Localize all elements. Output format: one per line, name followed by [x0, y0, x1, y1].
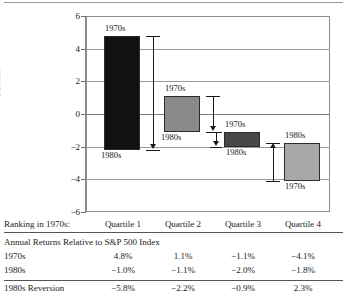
- arrowhead-q2: [210, 126, 216, 131]
- bar-label-q2-bottom: 1980s: [161, 133, 181, 142]
- table-section-title-row: Annual Returns Relative to S&P 500 Index: [4, 235, 343, 249]
- table-row-label-reversion: 1980s Reversion: [4, 281, 64, 295]
- table-header-label: Ranking in 1970s:: [4, 216, 70, 232]
- y-tick-label-4: 4: [58, 45, 80, 54]
- y-tick-label-2: 2: [58, 77, 80, 86]
- bar-label-q1-top: 1970s: [105, 24, 125, 33]
- table-header-quartile-2: Quartile 2: [153, 216, 213, 232]
- table-cell-reversion-q4: 2.3%: [273, 281, 333, 295]
- table-row-reversion: 1980s Reversion −5.8% −2.2% −0.9% 2.3%: [4, 281, 343, 295]
- table-header-quartile-4: Quartile 4: [273, 216, 333, 232]
- arrow-line-q1: [153, 36, 154, 145]
- y-tick-label-6: 6: [58, 12, 80, 21]
- arrowhead-q4: [270, 143, 276, 148]
- table-cell-1970s-q1: 4.8%: [93, 249, 153, 263]
- data-table: Ranking in 1970s: Quartile 1 Quartile 2 …: [4, 216, 343, 295]
- y-tick-m6: [81, 212, 86, 213]
- table-rule-top: [4, 232, 343, 233]
- top-divider: [4, 2, 343, 3]
- bar-label-q3-top: 1970s: [225, 120, 245, 129]
- table-cell-1970s-q3: −1.1%: [213, 249, 273, 263]
- bar-quartile-2[interactable]: [164, 96, 200, 132]
- table-row-label-1970s: 1970s: [4, 249, 26, 263]
- table-cell-1970s-q2: 1.1%: [153, 249, 213, 263]
- plot-area: 1970s 1980s 1970s 1980s 1970s 1980s 1980…: [86, 16, 330, 212]
- table-section-title: Annual Returns Relative to S&P 500 Index: [4, 235, 160, 249]
- table-row-1980s: 1980s −1.0% −1.1% −2.0% −1.8%: [4, 263, 343, 277]
- table-row-1970s: 1970s 4.8% 1.1% −1.1% −4.1%: [4, 249, 343, 263]
- figure-container: Percent 6 4 2 0 −2 −4 −6 1970s 1980s 197…: [0, 0, 347, 307]
- bar-label-q2-top: 1970s: [165, 84, 185, 93]
- bar-quartile-4[interactable]: [284, 143, 320, 181]
- table-cell-reversion-q1: −5.8%: [93, 281, 153, 295]
- arrow-cap-q1-bottom: [146, 150, 160, 151]
- table-header-quartile-3: Quartile 3: [213, 216, 273, 232]
- y-axis-title: Percent: [0, 68, 2, 96]
- y-tick-label-m4: −4: [58, 175, 80, 184]
- arrow-cap-q4-bottom: [266, 181, 280, 182]
- table-cell-reversion-q3: −0.9%: [213, 281, 273, 295]
- table-row-label-1980s: 1980s: [4, 263, 26, 277]
- table-cell-1980s-q2: −1.1%: [153, 263, 213, 277]
- bar-label-q1-bottom: 1980s: [101, 151, 121, 160]
- y-tick-label-m2: −2: [58, 143, 80, 152]
- bar-label-q4-bottom: 1970s: [285, 182, 305, 191]
- bar-label-q4-top: 1980s: [285, 131, 305, 140]
- table-cell-1970s-q4: −4.1%: [273, 249, 333, 263]
- arrowhead-q3: [213, 141, 219, 146]
- bar-quartile-3[interactable]: [224, 132, 260, 147]
- table-cell-reversion-q2: −2.2%: [153, 281, 213, 295]
- bar-quartile-1[interactable]: [104, 36, 140, 150]
- table-header-quartile-1: Quartile 1: [93, 216, 153, 232]
- bar-label-q3-bottom: 1980s: [226, 148, 246, 157]
- y-tick-label-0: 0: [58, 110, 80, 119]
- table-cell-1980s-q4: −1.8%: [273, 263, 333, 277]
- table-header-row: Ranking in 1970s: Quartile 1 Quartile 2 …: [4, 216, 343, 232]
- arrowhead-q1: [150, 144, 156, 149]
- arrow-line-q2: [213, 96, 214, 127]
- arrow-line-q4: [273, 147, 274, 181]
- table-cell-1980s-q3: −2.0%: [213, 263, 273, 277]
- table-cell-1980s-q1: −1.0%: [93, 263, 153, 277]
- arrow-cap-q3-bottom: [210, 147, 222, 148]
